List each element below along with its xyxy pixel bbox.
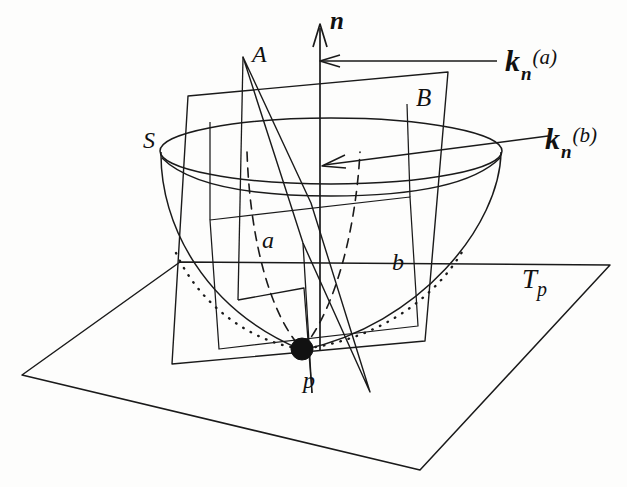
surface-rim-ellipse xyxy=(160,118,502,184)
label-normal-vector-n: n xyxy=(330,8,344,33)
label-kn-a: kn(a) xyxy=(505,46,555,76)
inner-box-right-vertical xyxy=(407,104,410,197)
inner-box-outline xyxy=(210,197,418,349)
normal-section-curve-b xyxy=(176,252,462,349)
leader-line-kn-b xyxy=(324,136,548,165)
tangent-plane-subscript: p xyxy=(537,278,547,300)
kn-b-superscript: (b) xyxy=(573,123,598,147)
kn-a-base: k xyxy=(505,44,520,77)
label-curve-a: a xyxy=(262,228,274,252)
kn-a-subscript: n xyxy=(521,63,532,84)
kn-b-subscript: n xyxy=(561,141,572,162)
kn-a-superscript: (a) xyxy=(533,45,558,69)
tangent-plane-letter: T xyxy=(522,264,537,294)
label-point-p: p xyxy=(303,368,315,392)
normal-plane-B xyxy=(172,72,448,364)
kn-b-base: k xyxy=(545,122,560,155)
point-p-marker xyxy=(291,338,313,360)
label-tangent-plane-Tp: Tp xyxy=(522,266,547,293)
label-plane-B: B xyxy=(416,85,431,110)
normal-curvature-figure: n A B S a b p Tp kn(a) kn(b) xyxy=(0,0,627,487)
label-surface-S: S xyxy=(143,128,155,152)
surface-left-silhouette xyxy=(161,152,302,350)
label-curve-b: b xyxy=(392,250,404,274)
label-kn-b: kn(b) xyxy=(545,124,595,154)
label-plane-A: A xyxy=(252,42,267,66)
leader-arrowhead-kn-b xyxy=(322,155,346,168)
